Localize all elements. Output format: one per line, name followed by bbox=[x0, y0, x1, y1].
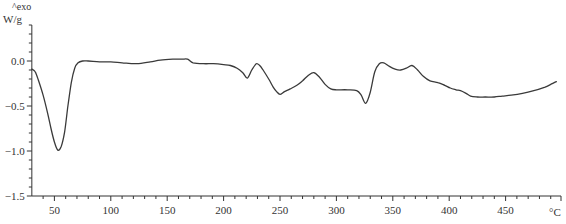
x-tick-label: 450 bbox=[497, 204, 514, 216]
y-tick-label: −1.5 bbox=[5, 190, 25, 202]
x-tick-label: 350 bbox=[385, 204, 402, 216]
dsc-chart: 0.0−0.5−1.0−1.55010015020025030035040045… bbox=[0, 0, 566, 224]
exo-annotation: ^exo bbox=[12, 1, 31, 12]
ticks bbox=[27, 25, 561, 201]
y-tick-label: 0.0 bbox=[11, 55, 25, 67]
y-tick-label: −0.5 bbox=[5, 100, 25, 112]
x-axis-unit-label: °C bbox=[549, 206, 561, 218]
tick-labels: 0.0−0.5−1.0−1.55010015020025030035040045… bbox=[5, 55, 514, 216]
axes bbox=[32, 25, 561, 196]
x-tick-label: 300 bbox=[328, 204, 345, 216]
x-tick-label: 200 bbox=[215, 204, 232, 216]
x-tick-label: 50 bbox=[49, 204, 61, 216]
y-tick-label: −1.0 bbox=[5, 145, 25, 157]
y-axis-unit-label: W/g bbox=[3, 13, 22, 25]
heat-flow-curve bbox=[32, 59, 557, 150]
x-tick-label: 250 bbox=[272, 204, 289, 216]
x-tick-label: 400 bbox=[441, 204, 458, 216]
x-tick-label: 150 bbox=[159, 204, 176, 216]
x-tick-label: 100 bbox=[103, 204, 120, 216]
